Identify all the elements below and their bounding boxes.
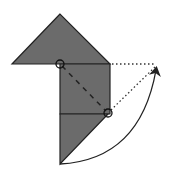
top-triangle-flap xyxy=(12,14,110,64)
guide-diagonal-dotted xyxy=(111,66,156,110)
origami-fold-diagram: Origami fold step xyxy=(0,0,172,176)
lower-triangle-flap xyxy=(60,114,108,164)
